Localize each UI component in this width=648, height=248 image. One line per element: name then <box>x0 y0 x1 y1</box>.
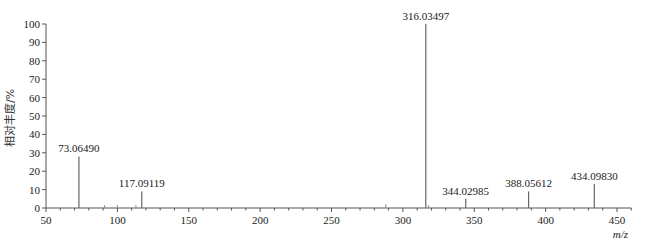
x-tick-label: 100 <box>109 214 126 226</box>
x-tick-label: 400 <box>537 214 554 226</box>
peak-label: 388.05612 <box>505 177 552 189</box>
y-tick-label: 40 <box>29 128 41 140</box>
x-tick-label: 450 <box>609 214 626 226</box>
peak-label: 316.03497 <box>402 10 449 22</box>
y-tick-label: 60 <box>29 92 41 104</box>
peak-label: 344.02985 <box>442 185 489 197</box>
y-tick-label: 90 <box>29 36 41 48</box>
y-axis-ticks: 0102030405060708090100 <box>24 18 47 214</box>
y-axis-label: 相对丰度/% <box>3 89 17 147</box>
peak-label: 73.06490 <box>58 142 100 154</box>
y-tick-label: 30 <box>29 147 41 159</box>
x-tick-label: 200 <box>252 214 269 226</box>
y-tick-label: 0 <box>35 202 41 214</box>
x-tick-label: 250 <box>323 214 340 226</box>
x-axis-label: m/z <box>613 228 629 240</box>
x-tick-label: 150 <box>181 214 198 226</box>
peak-label: 117.09119 <box>119 177 165 189</box>
x-axis-ticks: 50100150200250300350400450 <box>41 208 632 226</box>
mass-spectrum-chart: 0102030405060708090100 50100150200250300… <box>0 0 648 248</box>
x-tick-label: 350 <box>466 214 483 226</box>
y-tick-label: 50 <box>29 110 41 122</box>
y-tick-label: 100 <box>24 18 41 30</box>
y-tick-label: 20 <box>29 165 41 177</box>
y-tick-label: 70 <box>29 73 41 85</box>
peak-label: 434.09830 <box>571 170 618 182</box>
x-tick-label: 50 <box>41 214 53 226</box>
peaks: 73.06490117.09119316.03497344.02985388.0… <box>58 10 618 208</box>
x-tick-label: 300 <box>395 214 412 226</box>
y-tick-label: 10 <box>29 184 41 196</box>
y-tick-label: 80 <box>29 55 41 67</box>
